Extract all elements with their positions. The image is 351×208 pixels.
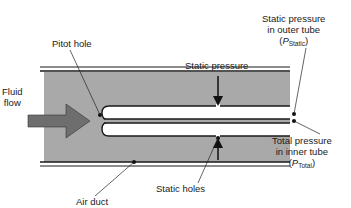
static-pressure-label: Static pressure xyxy=(185,60,248,71)
static-outer-symbol: (PStatic) xyxy=(262,35,325,49)
static-holes-label: Static holes xyxy=(156,183,205,194)
total-inner-line2: in inner tube xyxy=(272,146,332,157)
total-inner-symbol: (PTotal) xyxy=(272,157,332,171)
fluid-flow-label: Fluid flow xyxy=(2,86,23,108)
fluid-flow-line2: flow xyxy=(2,97,23,108)
total-inner-label: Total pressure in inner tube (PTotal) xyxy=(272,135,332,171)
total-inner-line1: Total pressure xyxy=(272,135,332,146)
air-duct-label: Air duct xyxy=(76,196,108,207)
pitot-hole-label: Pitot hole xyxy=(52,38,92,49)
static-outer-line1: Static pressure xyxy=(262,13,325,24)
static-outer-line2: in outer tube xyxy=(262,24,325,35)
outer-tube xyxy=(102,106,290,120)
outer-tube-lower xyxy=(102,122,290,136)
fluid-flow-line1: Fluid xyxy=(2,86,23,97)
static-outer-label: Static pressure in outer tube (PStatic) xyxy=(262,13,325,49)
